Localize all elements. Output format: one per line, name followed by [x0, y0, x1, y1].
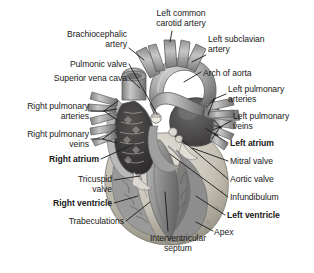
pulmonic-valve [151, 113, 161, 123]
label-right-pulmonary-arteries: Right pulmonary arteries [10, 102, 89, 121]
label-aortic-valve: Aortic valve [230, 175, 290, 185]
label-right-ventricle: Right ventricle [41, 199, 112, 209]
label-superior-vena-cava: Superior vena cava [24, 74, 127, 84]
label-brachiocephalic-artery: Brachiocephalic artery [53, 30, 127, 49]
label-left-pulmonary-arteries: Left pulmonary arteries [228, 85, 304, 104]
heart-anatomy-figure: Left common carotid arteryBrachiocephali… [0, 0, 314, 273]
label-mitral-valve: Mitral valve [230, 157, 290, 167]
label-infundibulum: Infundibulum [230, 193, 294, 203]
label-pulmonic-valve: Pulmonic valve [58, 60, 127, 70]
label-right-atrium: Right atrium [37, 155, 99, 165]
label-right-pulmonary-veins: Right pulmonary veins [10, 130, 89, 149]
label-interventricular-septum: Interventricular septum [140, 234, 216, 253]
left-common-carotid-artery-vessel [164, 40, 177, 68]
label-apex: Apex [214, 228, 244, 238]
label-arch-of-aorta: Arch of aorta [203, 69, 267, 79]
label-left-ventricle: Left ventricle [227, 211, 297, 221]
label-left-pulmonary-veins: Left pulmonary veins [233, 112, 309, 131]
label-trabeculations: Trabeculations [52, 217, 124, 227]
label-left-subclavian-artery: Left subclavian artery [208, 35, 282, 54]
leader-arch-of-aorta [184, 72, 201, 82]
label-tricuspid-valve: Tricuspid valve [63, 175, 112, 194]
label-left-atrium: Left atrium [230, 139, 290, 149]
label-left-common-carotid-artery: Left common carotid artery [146, 9, 216, 28]
